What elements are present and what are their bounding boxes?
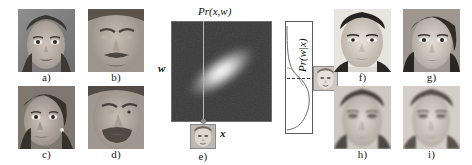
face-photo-d	[88, 86, 144, 149]
horizontal-axis-label-x: x	[220, 127, 226, 139]
caption-h: h)	[334, 148, 391, 160]
joint-density-heatmap	[171, 21, 272, 122]
face-photo-i	[403, 86, 460, 149]
posterior-leader-line	[287, 78, 315, 79]
caption-f: f)	[334, 71, 391, 83]
face-photo-a	[18, 9, 75, 72]
caption-a: a)	[18, 71, 75, 83]
joint-density-label: Pr(x,w)	[198, 5, 231, 17]
figure-root: a) b)	[0, 0, 472, 165]
conditional-density-label: Pr(w|x)	[296, 38, 308, 72]
observation-thumbnail	[190, 124, 216, 149]
caption-d: d)	[88, 148, 144, 160]
face-photo-g	[403, 9, 460, 72]
slice-indicator-line	[203, 21, 204, 134]
face-photo-f	[334, 9, 391, 72]
caption-c: c)	[18, 148, 75, 160]
face-photo-b	[88, 9, 144, 72]
vertical-axis-label-w: w	[158, 62, 165, 74]
face-photo-c	[18, 86, 75, 149]
caption-g: g)	[403, 71, 460, 83]
caption-i: i)	[403, 148, 460, 160]
caption-e: e)	[190, 150, 216, 162]
face-photo-h	[334, 86, 391, 149]
caption-b: b)	[88, 71, 144, 83]
